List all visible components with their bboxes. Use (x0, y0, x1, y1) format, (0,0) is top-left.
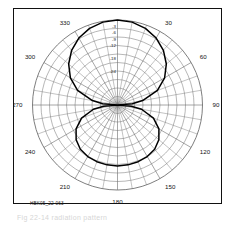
angle-tick-label: 180 (112, 198, 123, 203)
figure-frame: -3-6-9-12-18-24 030609012015018021024027… (13, 8, 222, 204)
angle-tick-label: 300 (25, 53, 36, 60)
radial-tick-label: -24 (110, 69, 117, 74)
angle-tick-label: 120 (200, 148, 211, 155)
polar-chart: -3-6-9-12-18-24 030609012015018021024027… (14, 9, 221, 203)
radial-tick-label: -3 (112, 24, 116, 29)
angle-tick-label: 330 (60, 19, 71, 26)
radial-tick-label: -12 (110, 43, 117, 48)
angle-tick-label: 210 (60, 183, 71, 190)
angle-tick-label: 30 (165, 19, 172, 26)
radial-tick-label: -18 (110, 56, 117, 61)
polar-plot-area: -3-6-9-12-18-24 030609012015018021024027… (14, 9, 221, 203)
angle-tick-label: 60 (200, 53, 207, 60)
angle-tick-label: 90 (213, 101, 220, 108)
figure-root: -3-6-9-12-18-24 030609012015018021024027… (0, 0, 236, 229)
angle-tick-label: 150 (165, 183, 176, 190)
figure-id-label: HBK05_22-063 (30, 201, 64, 206)
radial-tick-label: -6 (112, 30, 116, 35)
angle-tick-label: 0 (116, 9, 120, 10)
radial-tick-label: -9 (112, 37, 116, 42)
figure-caption-partial: Fig 22-14 radiation pattern (17, 214, 222, 224)
angle-tick-label: 270 (14, 101, 23, 108)
angle-tick-label: 240 (25, 148, 36, 155)
